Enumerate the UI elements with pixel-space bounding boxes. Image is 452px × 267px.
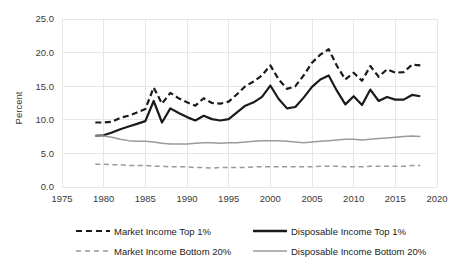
legend-label: Disposable Income Bottom 20% <box>291 246 427 257</box>
x-tick-label: 1995 <box>218 193 239 204</box>
legend-label: Market Income Top 1% <box>114 226 212 237</box>
x-tick-label: 2015 <box>385 193 406 204</box>
legend-label: Market Income Bottom 20% <box>114 246 232 257</box>
x-tick-label: 1985 <box>135 193 156 204</box>
x-tick-label: 1975 <box>51 193 72 204</box>
x-tick-label: 1990 <box>176 193 197 204</box>
legend-label: Disposable Income Top 1% <box>291 226 406 237</box>
x-tick-label: 2000 <box>260 193 281 204</box>
y-tick-label: 20.0 <box>36 47 55 58</box>
y-tick-label: 0.0 <box>41 181 54 192</box>
chart-container: 0.05.010.015.020.025.0 19751980198519901… <box>0 0 452 267</box>
x-tick-label: 2005 <box>301 193 322 204</box>
y-tick-label: 10.0 <box>36 114 55 125</box>
x-tick-label: 2010 <box>343 193 364 204</box>
y-tick-label: 5.0 <box>41 148 54 159</box>
x-tick-label: 2020 <box>426 193 447 204</box>
y-axis-title: Percent <box>13 91 24 124</box>
y-tick-label: 25.0 <box>36 13 55 24</box>
x-tick-label: 1980 <box>93 193 114 204</box>
income-inequality-line-chart: 0.05.010.015.020.025.0 19751980198519901… <box>0 0 452 267</box>
y-tick-label: 15.0 <box>36 81 55 92</box>
